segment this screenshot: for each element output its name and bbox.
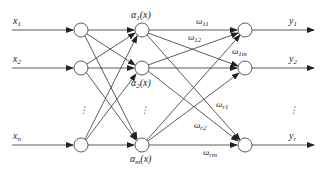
weight-label-r1: ωr1 <box>216 99 229 111</box>
input-label-n: xn <box>12 130 21 143</box>
input-node-1 <box>74 23 88 37</box>
input-node-2 <box>74 61 88 75</box>
weight-label-11: ω11 <box>196 16 209 28</box>
output-label-1: y1 <box>288 15 297 28</box>
input-label-2: x2 <box>12 53 21 66</box>
output-label-r: yr <box>288 130 296 143</box>
output-ellipsis: ⋮ <box>289 105 298 115</box>
input-node-n <box>74 138 88 152</box>
input-label-1: x1 <box>12 15 21 28</box>
output-label-2: y2 <box>288 53 297 66</box>
output-node-r <box>238 138 252 152</box>
neural-network-diagram: x1 x2 xn α1(x) α2(x) αm(x) y1 y2 yr ω11 … <box>0 0 325 171</box>
hidden-label-2: α2(x) <box>131 77 152 90</box>
hidden-node-1 <box>135 23 149 37</box>
hidden-ellipsis: ⋮ <box>140 105 149 115</box>
hidden-label-m: αm(x) <box>130 153 152 166</box>
weight-label-r2: ωr2 <box>194 120 207 132</box>
output-node-1 <box>238 23 252 37</box>
weight-label-12: ω12 <box>188 32 202 44</box>
hidden-node-m <box>135 138 149 152</box>
connections <box>12 30 314 145</box>
hidden-label-1: α1(x) <box>131 9 152 22</box>
weight-label-1m: ω1m <box>232 46 247 58</box>
nodes <box>74 23 252 152</box>
output-node-2 <box>238 61 252 75</box>
weight-label-rm: ωrm <box>203 147 217 159</box>
hidden-node-2 <box>135 61 149 75</box>
input-ellipsis: ⋮ <box>79 105 88 115</box>
